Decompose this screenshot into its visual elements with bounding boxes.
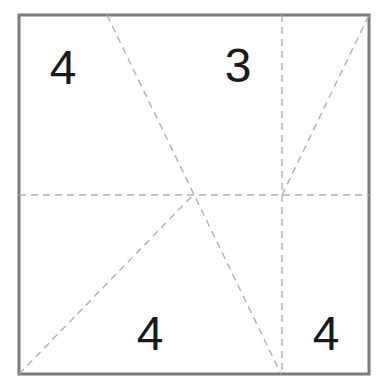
fold-line-diagonal-bottom-left — [19, 195, 193, 374]
region-label-bottom-middle: 4 — [137, 307, 164, 360]
region-label-top-middle: 3 — [225, 39, 252, 92]
region-label-top-left: 4 — [50, 41, 77, 94]
region-label-bottom-right: 4 — [313, 307, 340, 360]
folded-square-diagram: 4 3 4 4 — [0, 0, 391, 389]
fold-line-diagonal-top-right — [282, 15, 369, 195]
